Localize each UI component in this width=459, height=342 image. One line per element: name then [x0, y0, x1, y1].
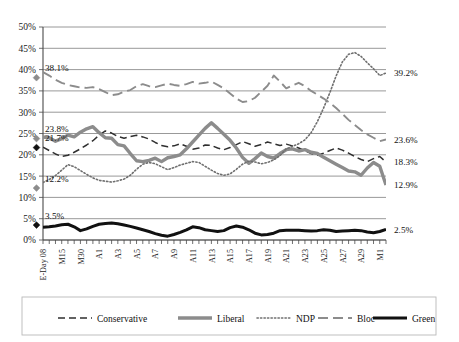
y-axis-label: 35%	[19, 86, 37, 96]
x-axis-tick-label: M15	[58, 249, 67, 264]
legend-label-liberal: Liberal	[217, 314, 245, 324]
x-axis-tick-label: A13	[208, 249, 217, 263]
x-axis-tick-label: A15	[226, 249, 235, 263]
y-axis-label: 40%	[19, 65, 37, 75]
y-axis-label: 5%	[23, 214, 36, 224]
end-labels-group: 39.2%23.6%18.3%12.9%2.5%	[394, 68, 418, 234]
y-axis-label: 10%	[19, 193, 37, 203]
series-line-green	[43, 223, 386, 236]
y-axis-label: 50%	[19, 22, 37, 32]
start-marker-ndp	[33, 185, 40, 192]
x-axis-tick-label: A17	[245, 249, 254, 263]
x-tick-labels-group: E-Day 08M15M30A1A3A5A7A9A11A13A15A17A19A…	[39, 249, 385, 281]
x-axis-tick-label: A3	[114, 249, 123, 259]
end-value-label-bloc: 23.6%	[394, 135, 418, 145]
y-axis-label: 25%	[19, 129, 37, 139]
start-value-label-ndp: 12.2%	[45, 174, 69, 184]
x-axis-tick-label: A9	[170, 249, 179, 259]
poll-trend-chart: 0%5%10%15%20%25%30%35%40%45%50%E-Day 08M…	[0, 0, 459, 342]
start-marker-conservative	[33, 74, 40, 81]
start-value-label-conservative: 38.1%	[45, 63, 69, 73]
y-axis-label: 0%	[23, 235, 36, 245]
x-axis-tick-label: A21	[282, 249, 291, 263]
legend-label-bloc: Bloc	[357, 314, 375, 324]
legend-label-green: Green	[412, 314, 435, 324]
series-line-bloc	[43, 72, 386, 141]
y-axis-label: 20%	[19, 150, 37, 160]
x-axis-tick-label: A11	[189, 249, 198, 263]
x-axis-tick-label: A19	[264, 249, 273, 263]
x-axis-tick-label: A23	[301, 249, 310, 263]
x-axis-tick-label: A27	[339, 249, 348, 263]
x-axis-tick-label: A5	[133, 249, 142, 259]
series-group	[43, 53, 386, 237]
x-ticks-group	[43, 240, 386, 244]
start-value-label-green: 3.5%	[45, 211, 64, 221]
x-axis-tick-label: E-Day 08	[39, 249, 48, 281]
x-axis-tick-label: A25	[320, 249, 329, 263]
series-line-conservative	[43, 131, 386, 162]
legend-group: ConservativeLiberalNDPBlocGreen	[58, 314, 435, 324]
end-value-label-ndp: 39.2%	[394, 68, 418, 78]
end-value-label-liberal: 12.9%	[394, 180, 418, 190]
x-axis-tick-label: M1	[376, 249, 385, 260]
end-value-label-conservative: 18.3%	[394, 157, 418, 167]
y-axis-label: 15%	[19, 172, 37, 182]
x-axis-tick-label: A29	[357, 249, 366, 263]
start-markers-group: 38.1%23.8%21.7%12.2%3.5%	[33, 63, 69, 228]
end-value-label-green: 2.5%	[394, 225, 413, 235]
x-axis-tick-label: M30	[77, 249, 86, 264]
y-axis-label: 45%	[19, 44, 37, 54]
y-axis-label: 30%	[19, 108, 37, 118]
x-axis-tick-label: A7	[151, 249, 160, 259]
chart-canvas: 0%5%10%15%20%25%30%35%40%45%50%E-Day 08M…	[0, 0, 459, 342]
x-axis-tick-label: A1	[95, 249, 104, 259]
legend-label-ndp: NDP	[296, 314, 315, 324]
legend-label-conservative: Conservative	[97, 314, 147, 324]
start-value-label-liberal: 21.7%	[45, 133, 69, 143]
